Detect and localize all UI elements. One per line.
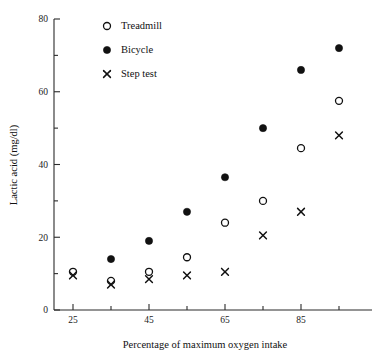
y-tick-label: 40 <box>39 160 49 170</box>
data-point-open-circle-marker <box>108 277 115 284</box>
x-tick-label: 25 <box>68 315 78 325</box>
data-point-open-circle-marker <box>260 197 267 204</box>
legend-filled-circle-marker <box>103 46 110 53</box>
y-tick-label: 80 <box>39 14 49 24</box>
data-point-filled-circle-marker <box>259 125 266 132</box>
axes-group <box>54 19 372 310</box>
data-point-filled-circle-marker <box>297 66 304 73</box>
data-point-filled-circle-marker <box>183 208 190 215</box>
data-point-filled-circle-marker <box>335 45 342 52</box>
data-point-filled-circle-marker <box>145 237 152 244</box>
y-axis-tick-labels: 020406080 <box>39 14 49 315</box>
x-tick-label: 45 <box>144 315 154 325</box>
y-tick-label: 60 <box>39 87 49 97</box>
legend-item-step-test: Step test <box>104 68 157 79</box>
y-axis-title: Lactic acid (mg/dl) <box>8 124 20 205</box>
y-tick-label: 0 <box>43 305 48 315</box>
x-tick-label: 65 <box>220 315 230 325</box>
data-point-open-circle-marker <box>146 268 153 275</box>
data-point-filled-circle-marker <box>221 174 228 181</box>
legend: TreadmillBicycleStep test <box>103 20 162 79</box>
x-tick-label: 85 <box>296 315 306 325</box>
x-axis-ticks <box>73 304 339 310</box>
y-tick-label: 20 <box>39 233 49 243</box>
data-point-filled-circle-marker <box>107 255 114 262</box>
data-point-open-circle-marker <box>298 145 305 152</box>
legend-item-label: Bicycle <box>121 44 153 55</box>
x-axis-tick-labels: 25456585 <box>68 315 306 325</box>
y-axis-ticks <box>54 19 60 310</box>
legend-item-bicycle: Bicycle <box>103 44 153 55</box>
legend-open-circle-marker <box>104 23 111 30</box>
plot-canvas: 020406080 25456585 Lactic acid (mg/dl) P… <box>0 0 376 360</box>
data-point-open-circle-marker <box>70 268 77 275</box>
series-step-test <box>70 132 343 288</box>
legend-item-label: Treadmill <box>121 20 162 31</box>
data-point-open-circle-marker <box>336 97 343 104</box>
legend-item-label: Step test <box>121 68 157 79</box>
data-point-open-circle-marker <box>222 219 229 226</box>
scatter-plot-figure: 020406080 25456585 Lactic acid (mg/dl) P… <box>0 0 376 360</box>
data-points-group <box>70 45 343 288</box>
legend-item-treadmill: Treadmill <box>104 20 163 31</box>
data-point-open-circle-marker <box>184 254 191 261</box>
x-axis-title: Percentage of maximum oxygen intake <box>123 339 288 350</box>
